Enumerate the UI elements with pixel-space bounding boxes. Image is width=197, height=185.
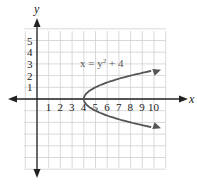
y-tick-label: 5 — [27, 35, 33, 47]
x-axis-label: x — [188, 92, 195, 106]
x-tick-label: 1 — [46, 101, 52, 113]
equation-label: x = y2 + 4 — [80, 57, 124, 69]
x-axis — [8, 96, 188, 103]
y-tick-label: 2 — [27, 70, 33, 82]
x-tick-label: 10 — [148, 101, 160, 113]
y-axis — [34, 18, 41, 178]
x-tick-labels: 12345678910 — [46, 101, 160, 113]
y-tick-label: 4 — [27, 46, 33, 58]
y-tick-labels: 12345 — [27, 35, 33, 94]
x-tick-label: 8 — [128, 101, 134, 113]
parabola-graph: y x 12345678910 12345 x = y2 + 4 — [0, 0, 197, 185]
x-tick-label: 3 — [69, 101, 75, 113]
x-tick-label: 9 — [139, 101, 145, 113]
x-tick-label: 7 — [116, 101, 122, 113]
y-axis-label: y — [33, 2, 40, 16]
x-tick-label: 2 — [57, 101, 63, 113]
y-tick-label: 3 — [27, 58, 33, 70]
y-tick-label: 1 — [27, 81, 33, 93]
x-tick-label: 6 — [104, 101, 110, 113]
